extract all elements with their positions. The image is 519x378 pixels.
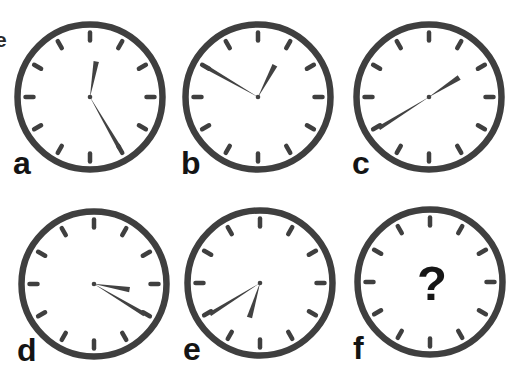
clock-a: a [10, 17, 170, 177]
center-hub [256, 95, 261, 100]
clock-label-c: c [352, 147, 370, 179]
clock-label-a: a [13, 147, 31, 179]
clock-label-d: d [17, 334, 37, 366]
center-hub [258, 281, 263, 286]
clock-label-f: f [353, 332, 364, 364]
clock-f: ?f [350, 202, 510, 362]
clock-d-drawing [14, 204, 174, 364]
clock-b-drawing [178, 17, 338, 177]
center-hub [88, 95, 93, 100]
clock-label-e: e [183, 333, 201, 365]
clock-b: b [178, 17, 338, 177]
clock-d: d [14, 204, 174, 364]
clock-puzzle-canvas: e abcde?f [0, 0, 519, 378]
clock-c: c [349, 17, 509, 177]
cropped-text-fragment: e [0, 29, 7, 50]
center-hub [92, 282, 97, 287]
clock-e: e [180, 203, 340, 363]
center-hub [427, 95, 432, 100]
clock-a-drawing [10, 17, 170, 177]
question-mark: ? [352, 203, 512, 363]
clock-e-drawing [180, 203, 340, 363]
clock-c-drawing [349, 17, 509, 177]
clock-label-b: b [181, 147, 201, 179]
